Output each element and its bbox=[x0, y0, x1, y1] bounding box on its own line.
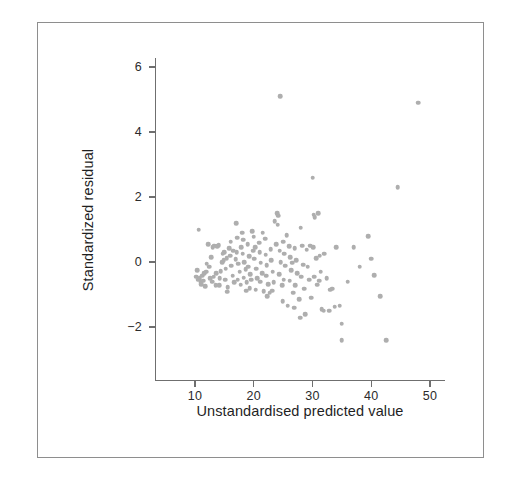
data-point bbox=[234, 221, 239, 226]
data-point bbox=[270, 269, 275, 274]
data-point bbox=[292, 305, 297, 310]
data-point bbox=[277, 272, 282, 277]
data-point bbox=[250, 229, 255, 234]
data-point bbox=[293, 283, 298, 288]
data-point bbox=[217, 276, 222, 281]
data-point bbox=[257, 240, 262, 245]
data-point bbox=[228, 253, 233, 258]
data-point bbox=[281, 278, 286, 283]
data-point bbox=[309, 295, 314, 300]
data-point bbox=[340, 338, 345, 343]
data-point bbox=[298, 226, 303, 231]
data-point bbox=[248, 272, 253, 277]
data-point bbox=[318, 269, 323, 274]
data-point bbox=[345, 279, 350, 284]
data-point bbox=[273, 219, 278, 224]
data-point bbox=[316, 211, 321, 216]
data-point bbox=[239, 282, 244, 287]
data-point bbox=[291, 291, 296, 296]
data-point bbox=[288, 255, 293, 260]
data-point bbox=[369, 256, 374, 261]
data-point bbox=[372, 273, 377, 278]
data-point bbox=[283, 264, 288, 269]
data-point bbox=[271, 280, 276, 285]
data-point bbox=[293, 246, 298, 251]
data-point bbox=[236, 261, 241, 266]
data-point bbox=[351, 245, 356, 250]
data-point bbox=[261, 289, 266, 294]
data-point bbox=[252, 256, 257, 261]
data-point bbox=[229, 264, 234, 269]
data-point bbox=[395, 185, 400, 190]
data-point bbox=[294, 258, 299, 263]
data-point bbox=[240, 230, 245, 235]
data-point bbox=[263, 236, 268, 241]
data-point bbox=[276, 214, 281, 219]
data-point bbox=[244, 288, 249, 293]
data-point bbox=[334, 245, 339, 250]
data-point bbox=[274, 242, 279, 247]
data-point bbox=[384, 338, 389, 343]
y-axis-title: Standardized residual bbox=[80, 149, 96, 291]
data-point bbox=[321, 308, 326, 313]
data-point bbox=[230, 273, 235, 278]
data-point bbox=[366, 234, 371, 239]
data-point bbox=[280, 283, 285, 288]
data-point bbox=[306, 265, 311, 270]
data-point bbox=[268, 247, 273, 252]
data-point bbox=[307, 278, 312, 283]
data-point bbox=[241, 238, 246, 243]
data-point bbox=[209, 255, 214, 260]
data-point bbox=[204, 269, 209, 274]
data-point bbox=[287, 279, 292, 284]
figure-root: −20246 1020304050 Unstandardised predict… bbox=[0, 0, 512, 488]
data-point bbox=[203, 284, 208, 289]
data-point bbox=[278, 260, 283, 265]
data-point bbox=[337, 304, 342, 309]
data-point bbox=[196, 227, 201, 232]
data-point bbox=[312, 274, 317, 279]
data-point bbox=[264, 273, 269, 278]
data-point bbox=[263, 253, 268, 258]
data-point bbox=[299, 274, 304, 279]
data-point bbox=[223, 278, 228, 283]
data-point bbox=[266, 282, 271, 287]
data-point bbox=[280, 299, 285, 304]
data-point bbox=[253, 245, 258, 250]
data-point bbox=[330, 286, 335, 291]
data-point bbox=[282, 252, 287, 257]
data-point bbox=[378, 294, 383, 299]
data-point bbox=[247, 254, 252, 259]
data-point bbox=[242, 260, 247, 265]
data-point bbox=[253, 287, 258, 292]
data-point bbox=[357, 265, 362, 270]
data-point bbox=[254, 266, 259, 271]
data-point bbox=[315, 282, 320, 287]
data-point bbox=[302, 286, 307, 291]
data-point bbox=[216, 243, 221, 248]
data-point bbox=[284, 233, 289, 238]
data-point bbox=[231, 248, 236, 253]
data-point bbox=[251, 234, 256, 239]
data-point bbox=[290, 260, 295, 265]
data-point bbox=[281, 240, 286, 245]
data-point bbox=[287, 244, 292, 249]
data-point bbox=[225, 290, 230, 295]
data-point bbox=[220, 252, 225, 257]
data-point bbox=[249, 278, 254, 283]
data-point bbox=[265, 294, 270, 299]
data-point bbox=[340, 321, 345, 326]
data-point bbox=[308, 243, 313, 248]
data-point bbox=[270, 288, 275, 293]
data-point bbox=[310, 175, 315, 180]
data-point bbox=[324, 276, 329, 281]
data-point bbox=[269, 258, 274, 263]
data-point bbox=[259, 260, 264, 265]
data-point bbox=[239, 245, 244, 250]
data-point bbox=[223, 266, 228, 271]
data-point bbox=[297, 297, 302, 302]
scatter-plot-area: −20246 1020304050 Unstandardised predict… bbox=[0, 0, 512, 488]
data-point bbox=[286, 304, 291, 309]
data-point bbox=[333, 305, 338, 310]
data-point bbox=[303, 312, 308, 317]
